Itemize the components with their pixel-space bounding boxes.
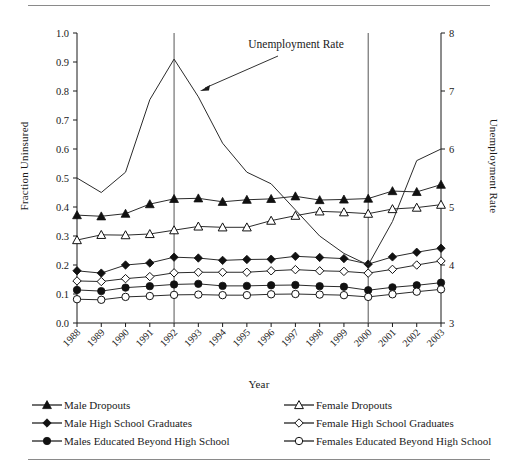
svg-text:1997: 1997 bbox=[279, 327, 301, 349]
annotation-unemployment-rate: Unemployment Rate bbox=[200, 38, 344, 91]
y-axis-right-title: Unemployment Rate bbox=[488, 96, 500, 236]
svg-text:0.1: 0.1 bbox=[56, 289, 69, 300]
legend-column-male: Male DropoutsMale High School GraduatesM… bbox=[30, 396, 276, 450]
legend-item-female-2[interactable]: Females Educated Beyond High School bbox=[282, 432, 512, 450]
svg-text:5: 5 bbox=[449, 202, 454, 213]
x-axis-ticks: 1988198919901991199219931994199519961997… bbox=[60, 323, 446, 349]
bottom-rule bbox=[28, 459, 490, 460]
data-series bbox=[73, 59, 446, 303]
svg-text:1994: 1994 bbox=[206, 327, 228, 349]
reference-lines bbox=[174, 33, 368, 323]
svg-text:1999: 1999 bbox=[327, 327, 349, 349]
legend-label: Females Educated Beyond High School bbox=[316, 435, 491, 447]
svg-text:0.7: 0.7 bbox=[56, 115, 69, 126]
open-diamond-icon bbox=[282, 415, 316, 431]
legend-marker bbox=[30, 415, 64, 431]
top-rule bbox=[28, 5, 490, 6]
open-circle-icon bbox=[282, 433, 316, 449]
svg-text:0.0: 0.0 bbox=[56, 318, 69, 329]
svg-text:1993: 1993 bbox=[182, 327, 204, 349]
svg-text:0.2: 0.2 bbox=[56, 260, 69, 271]
legend-marker bbox=[30, 433, 64, 449]
svg-text:7: 7 bbox=[449, 86, 454, 97]
legend: Male DropoutsMale High School GraduatesM… bbox=[30, 396, 500, 454]
svg-text:1991: 1991 bbox=[133, 327, 155, 349]
svg-text:2003: 2003 bbox=[424, 327, 446, 349]
legend-marker bbox=[282, 433, 316, 449]
legend-item-male-0[interactable]: Male Dropouts bbox=[30, 396, 276, 414]
filled-diamond-icon bbox=[30, 415, 64, 431]
x-axis-title: Year bbox=[0, 378, 518, 390]
svg-text:1996: 1996 bbox=[255, 327, 277, 349]
figure: Fraction Uninsured Unemployment Rate Yea… bbox=[0, 0, 518, 469]
legend-label: Male Dropouts bbox=[64, 399, 130, 411]
svg-text:8: 8 bbox=[449, 28, 454, 39]
chart-plot-area: 0.00.10.20.30.40.50.60.70.80.91.0345678 … bbox=[0, 0, 518, 395]
legend-item-female-0[interactable]: Female Dropouts bbox=[282, 396, 512, 414]
svg-text:0.3: 0.3 bbox=[56, 231, 69, 242]
svg-text:0.6: 0.6 bbox=[56, 144, 69, 155]
filled-triangle-icon bbox=[30, 397, 64, 413]
svg-text:2001: 2001 bbox=[376, 327, 398, 349]
legend-marker bbox=[282, 397, 316, 413]
y-axis-left-title: Fraction Uninsured bbox=[18, 96, 30, 236]
svg-text:0.8: 0.8 bbox=[56, 86, 69, 97]
legend-column-female: Female DropoutsFemale High School Gradua… bbox=[282, 396, 512, 450]
svg-text:2002: 2002 bbox=[400, 327, 422, 349]
legend-marker bbox=[30, 397, 64, 413]
svg-text:1989: 1989 bbox=[85, 327, 107, 349]
svg-text:0.5: 0.5 bbox=[56, 173, 69, 184]
axes: 0.00.10.20.30.40.50.60.70.80.91.0345678 bbox=[56, 28, 455, 329]
legend-label: Male High School Graduates bbox=[64, 417, 192, 429]
open-triangle-icon bbox=[282, 397, 316, 413]
legend-item-female-1[interactable]: Female High School Graduates bbox=[282, 414, 512, 432]
svg-text:6: 6 bbox=[449, 144, 454, 155]
svg-text:1988: 1988 bbox=[60, 327, 82, 349]
legend-item-male-1[interactable]: Male High School Graduates bbox=[30, 414, 276, 432]
legend-label: Female High School Graduates bbox=[316, 417, 454, 429]
svg-text:0.9: 0.9 bbox=[56, 57, 69, 68]
legend-item-male-2[interactable]: Males Educated Beyond High School bbox=[30, 432, 276, 450]
svg-text:1.0: 1.0 bbox=[56, 28, 69, 39]
legend-label: Female Dropouts bbox=[316, 399, 392, 411]
svg-text:1998: 1998 bbox=[303, 327, 325, 349]
svg-text:0.4: 0.4 bbox=[56, 202, 70, 213]
svg-text:2000: 2000 bbox=[352, 327, 374, 349]
filled-circle-icon bbox=[30, 433, 64, 449]
svg-text:4: 4 bbox=[449, 260, 455, 271]
legend-label: Males Educated Beyond High School bbox=[64, 435, 230, 447]
svg-text:3: 3 bbox=[449, 318, 454, 329]
svg-text:1990: 1990 bbox=[109, 327, 131, 349]
svg-text:1992: 1992 bbox=[158, 327, 180, 349]
legend-marker bbox=[282, 415, 316, 431]
svg-text:1995: 1995 bbox=[230, 327, 252, 349]
svg-text:Unemployment Rate: Unemployment Rate bbox=[248, 38, 344, 51]
